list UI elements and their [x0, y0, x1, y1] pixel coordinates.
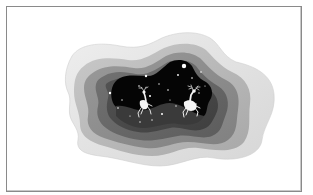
paper-cut-illustration [0, 0, 313, 195]
